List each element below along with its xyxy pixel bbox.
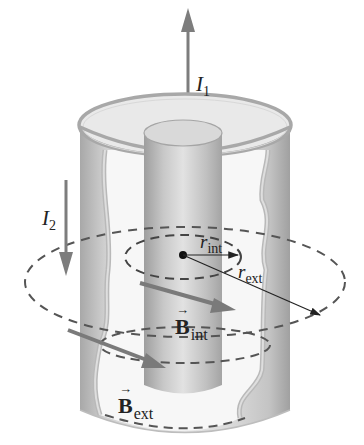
label-i1: I1 <box>196 74 210 95</box>
label-r-int: rint <box>200 232 222 251</box>
label-r-ext: rext <box>238 262 263 281</box>
current-i2-arrow <box>59 180 73 276</box>
label-i2: I2 <box>42 208 56 229</box>
label-b-ext: →Bext <box>118 395 153 417</box>
label-b-int: →Bint <box>175 316 208 338</box>
